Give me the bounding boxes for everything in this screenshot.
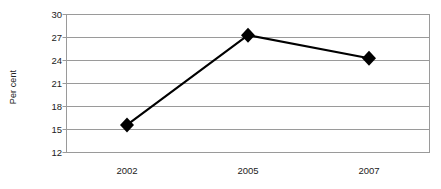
data-point-marker xyxy=(241,28,255,43)
data-line xyxy=(127,35,369,125)
line-chart: Per cent 12151821242730 200220052007 xyxy=(0,0,441,189)
x-axis-tick-label: 2002 xyxy=(97,166,157,176)
x-axis-tick-label: 2005 xyxy=(218,166,278,176)
data-point-marker xyxy=(120,117,134,132)
x-axis-tick-label: 2007 xyxy=(339,166,399,176)
data-point-marker xyxy=(362,51,376,66)
data-markers xyxy=(120,28,376,133)
plot-area xyxy=(0,0,441,189)
